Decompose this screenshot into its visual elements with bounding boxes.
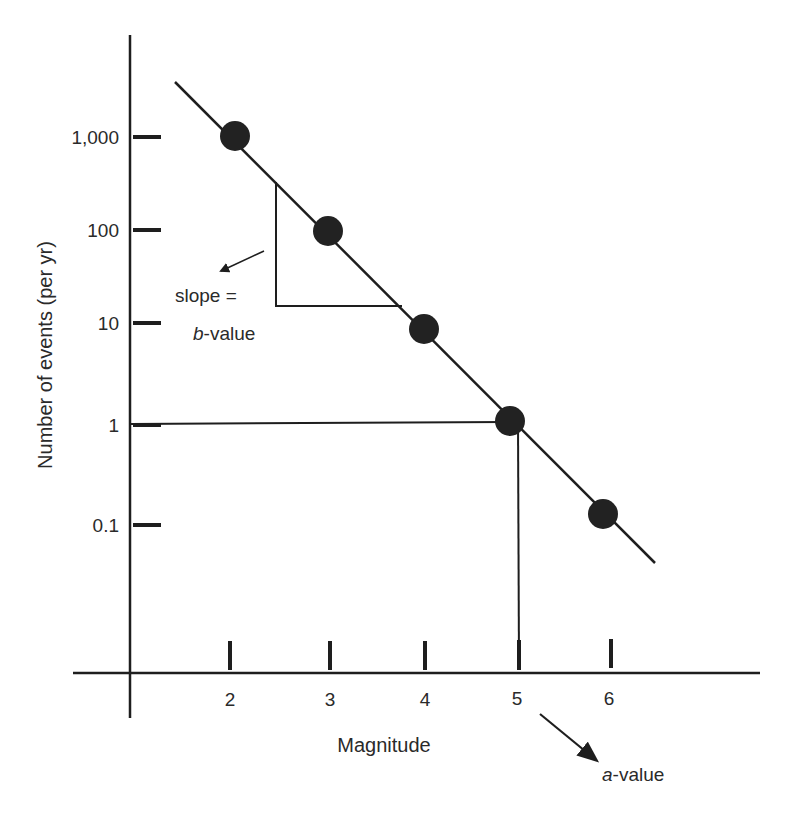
x-tick-label: 3 bbox=[325, 689, 336, 710]
b-value-annotation: slope = b-value bbox=[175, 251, 264, 344]
data-point-m6 bbox=[588, 499, 618, 529]
y-tick-label: 1 bbox=[108, 415, 119, 436]
y-tick-label: 100 bbox=[87, 220, 119, 241]
a-value-reference-lines bbox=[130, 422, 519, 670]
x-tick-label: 2 bbox=[225, 689, 236, 710]
data-point-m2 bbox=[220, 121, 250, 151]
x-tick-label: 5 bbox=[512, 688, 523, 709]
data-point-m4 bbox=[409, 314, 439, 344]
a-value-label: a-value bbox=[602, 764, 664, 785]
b-value-label: b-value bbox=[193, 323, 255, 344]
y-tick-label: 1,000 bbox=[71, 127, 119, 148]
y-tick-label: 10 bbox=[98, 313, 119, 334]
b-value-arrow-icon bbox=[221, 251, 264, 271]
vertical-reference-line bbox=[518, 422, 519, 670]
x-tick-label: 4 bbox=[420, 689, 431, 710]
y-axis-title: Number of events (per yr) bbox=[34, 241, 56, 469]
horizontal-reference-line bbox=[130, 422, 508, 424]
b-value-suffix: -value bbox=[204, 323, 256, 344]
data-point-m3 bbox=[313, 216, 343, 246]
a-value-annotation: a-value bbox=[540, 714, 664, 785]
x-axis-title: Magnitude bbox=[337, 734, 430, 756]
y-ticks bbox=[133, 137, 161, 525]
y-tick-label: 0.1 bbox=[93, 515, 119, 536]
data-point-m5 bbox=[495, 406, 525, 436]
x-ticks bbox=[230, 639, 611, 670]
slope-label: slope = bbox=[175, 285, 237, 306]
y-tick-labels: 1,000 100 10 1 0.1 bbox=[71, 127, 119, 536]
gutenberg-richter-chart: 1,000 100 10 1 0.1 2 3 4 5 6 Magnitude N… bbox=[0, 0, 790, 819]
x-tick-labels: 2 3 4 5 6 bbox=[225, 688, 615, 710]
a-value-suffix: -value bbox=[613, 764, 665, 785]
a-value-prefix: a bbox=[602, 764, 613, 785]
axes bbox=[73, 35, 760, 718]
x-tick-label: 6 bbox=[604, 688, 615, 709]
b-value-prefix: b bbox=[193, 323, 204, 344]
a-value-arrow-icon bbox=[540, 714, 596, 760]
